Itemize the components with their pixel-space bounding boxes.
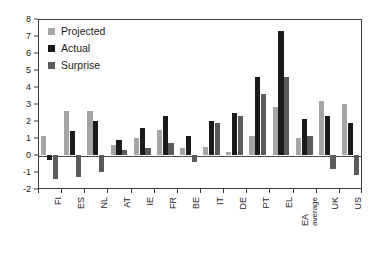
bar-surprise-ie [145, 148, 150, 155]
bar-actual-be [186, 136, 191, 155]
bar-group [107, 19, 130, 189]
y-tick-label: 6 [26, 49, 31, 58]
bar-group [177, 19, 200, 189]
x-tick-label-it: IT [216, 197, 225, 205]
bar-projected-it [203, 147, 208, 156]
bar-projected-fr [157, 130, 162, 156]
bar-projected-uk [319, 101, 324, 155]
bar-surprise-us [354, 155, 359, 175]
y-tick-label: -2 [23, 185, 31, 194]
bar-actual-el [278, 31, 283, 155]
bar-group [223, 19, 246, 189]
bar-surprise-fi [53, 155, 58, 179]
bar-group [316, 19, 339, 189]
bar-group [269, 19, 292, 189]
y-tick-label: 1 [26, 134, 31, 143]
bar-group [246, 19, 269, 189]
bar-surprise-pt [261, 94, 266, 155]
bar-actual-us [348, 123, 353, 155]
y-tick-label: 7 [26, 32, 31, 41]
legend-swatch-icon [48, 62, 55, 69]
x-tick-label-at: AT [123, 197, 132, 208]
x-tick-label-de: DE [239, 197, 248, 210]
x-tick-label-uk: UK [331, 197, 340, 210]
bar-surprise-fr [168, 143, 173, 155]
x-tick-mark [61, 189, 62, 193]
bar-actual-es [70, 131, 75, 155]
x-tick-label-ie: IE [146, 197, 155, 206]
x-tick-label-es: ES [77, 197, 86, 209]
bar-actual-ie [140, 128, 145, 155]
bar-surprise-at [122, 150, 127, 155]
y-tick-label: 8 [26, 15, 31, 24]
chart-container: 876543210-1-2 FIESNLATIEFRBEITDEPTELEAav… [0, 0, 374, 260]
bar-surprise-be [192, 155, 197, 162]
legend-item-projected[interactable]: Projected [48, 24, 105, 39]
bar-projected-ea-average [296, 138, 301, 155]
chart-legend: ProjectedActualSurprise [48, 24, 105, 75]
x-tick-mark [107, 189, 108, 193]
bar-actual-fi [47, 155, 52, 160]
bar-group [131, 19, 154, 189]
bar-actual-pt [255, 77, 260, 155]
bar-surprise-nl [99, 155, 104, 172]
x-tick-mark [177, 189, 178, 193]
bar-projected-ie [134, 138, 139, 155]
x-tick-mark [154, 189, 155, 193]
x-tick-mark [269, 189, 270, 193]
x-tick-label-us: US [354, 197, 363, 210]
x-tick-mark [339, 189, 340, 193]
bar-projected-es [64, 111, 69, 155]
bar-projected-el [273, 107, 278, 155]
x-axis: FIESNLATIEFRBEITDEPTELEAaverageUKUS [38, 189, 362, 260]
x-tick-mark [131, 189, 132, 193]
y-tick-label: 5 [26, 66, 31, 75]
bar-actual-it [209, 121, 214, 155]
x-tick-mark [361, 189, 362, 193]
bar-projected-pt [249, 136, 254, 155]
y-tick-label: 0 [26, 151, 31, 160]
x-tick-mark [223, 189, 224, 193]
bar-actual-ea-average [302, 119, 307, 155]
y-tick-label: 2 [26, 117, 31, 126]
bar-surprise-ea-average [307, 136, 312, 155]
x-tick-mark [246, 189, 247, 193]
legend-item-actual[interactable]: Actual [48, 41, 105, 56]
x-tick-mark [84, 189, 85, 193]
x-tick-label-be: BE [192, 197, 201, 209]
bar-surprise-de [238, 116, 243, 155]
bar-group [339, 19, 362, 189]
x-tick-label-el: EL [285, 197, 294, 208]
bar-projected-de [226, 152, 231, 155]
y-tick-label: 4 [26, 83, 31, 92]
y-tick-label: 3 [26, 100, 31, 109]
bar-projected-nl [87, 111, 92, 155]
bar-actual-at [116, 140, 121, 155]
bar-projected-us [342, 104, 347, 155]
legend-label: Surprise [61, 60, 100, 71]
bar-actual-nl [93, 121, 98, 155]
x-tick-label-nl: NL [100, 197, 109, 209]
bar-surprise-it [215, 123, 220, 155]
bar-group [200, 19, 223, 189]
bar-group [154, 19, 177, 189]
x-tick-label-fr: FR [169, 197, 178, 209]
bar-actual-uk [325, 116, 330, 155]
x-tick-mark [200, 189, 201, 193]
bar-projected-at [111, 145, 116, 155]
y-axis: 876543210-1-2 [0, 19, 38, 189]
bar-surprise-uk [330, 155, 335, 169]
legend-item-surprise[interactable]: Surprise [48, 58, 105, 73]
legend-swatch-icon [48, 45, 55, 52]
bar-group [293, 19, 316, 189]
x-tick-label-ea-average: EAaverage [301, 197, 319, 226]
x-tick-mark [293, 189, 294, 193]
bar-actual-fr [163, 116, 168, 155]
legend-label: Projected [61, 26, 105, 37]
bar-projected-be [180, 148, 185, 155]
x-tick-label-fi: FI [54, 197, 63, 205]
bar-surprise-el [284, 77, 289, 155]
bar-surprise-es [76, 155, 81, 177]
x-tick-label-pt: PT [262, 197, 271, 209]
y-tick-label: -1 [23, 168, 31, 177]
